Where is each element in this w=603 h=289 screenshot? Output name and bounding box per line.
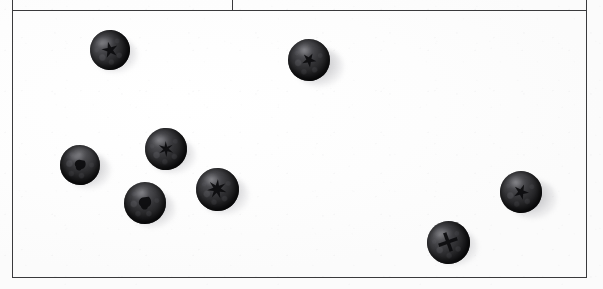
- blueberry-group: [0, 0, 603, 289]
- berry-top-left: [90, 30, 130, 70]
- berry-top-middle: [288, 39, 330, 81]
- berry-far-right: [500, 171, 542, 213]
- berry-mid-left: [60, 145, 100, 185]
- berry-cluster-upper: [145, 128, 187, 170]
- berry-cluster-lower: [124, 182, 166, 224]
- scanned-page: [0, 0, 603, 289]
- berry-bottom-right: [427, 221, 470, 264]
- berry-cluster-right: [196, 168, 239, 211]
